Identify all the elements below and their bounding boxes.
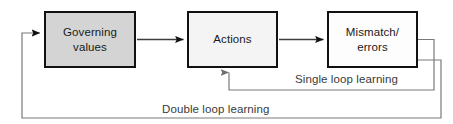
label-single-loop-learning: Single loop learning [291,73,402,85]
node-actions[interactable]: Actions [187,11,278,68]
node-mismatch-errors-line-2: errors [357,40,388,54]
diagram-canvas: Governing values Actions Mismatch/ error… [0,0,453,124]
node-governing-values[interactable]: Governing values [44,11,136,68]
node-actions-label: Actions [213,32,251,46]
node-mismatch-errors-line-1: Mismatch/ [346,25,399,39]
label-double-loop-learning: Double loop learning [158,103,274,115]
node-governing-values-line-1: Governing [63,25,117,39]
node-governing-values-line-2: values [73,40,107,54]
node-mismatch-errors[interactable]: Mismatch/ errors [327,11,418,68]
